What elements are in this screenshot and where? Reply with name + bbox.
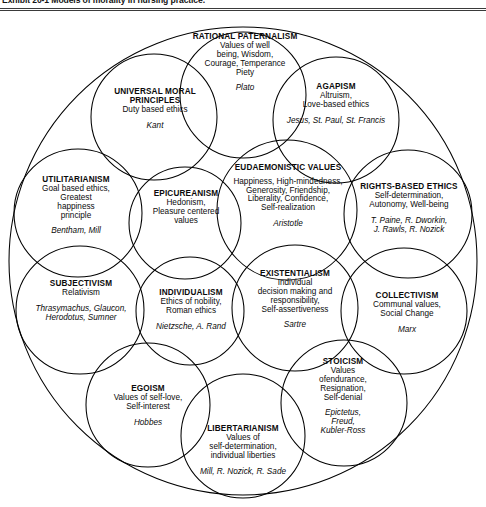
node-individualism[interactable]: INDIVIDUALISM Ethics of nobility, Roman … — [138, 289, 244, 332]
node-egoism[interactable]: EGOISM Values of self-love, Self-interes… — [93, 385, 203, 428]
node-stoicism[interactable]: STOICISM Values ofendurance, Resignation… — [300, 358, 386, 436]
exhibit-caption-text: Exhibit 20-1 Models of morality in nursi… — [2, 0, 205, 5]
node-description: Values of self-love, Self-interest — [93, 394, 203, 412]
node-proponents: Thrasymachus, Glaucon, Herodotus, Sumner — [16, 305, 146, 323]
node-description: Ethics of nobility, Roman ethics — [138, 298, 244, 316]
node-rights-based-ethics[interactable]: RIGHTS-BASED ETHICS Self-determination, … — [347, 183, 471, 234]
node-existentialism[interactable]: EXISTENTIALISM Individual decision makin… — [234, 270, 356, 330]
node-eudaemonistic-values[interactable]: EUDAEMONISTIC VALUES Happiness, High-min… — [222, 164, 354, 229]
node-proponents: Sartre — [234, 321, 356, 330]
node-proponents: Jesus, St. Paul, St. Francis — [272, 117, 400, 126]
node-universal-moral-principles[interactable]: UNIVERSAL MORAL PRINCIPLES Duty based et… — [88, 88, 222, 131]
node-description: Self-determination, Autonomy, Well-being — [347, 192, 471, 210]
node-proponents: Bentham, Mill — [19, 227, 133, 236]
node-description: Individual decision making and responsib… — [234, 279, 356, 314]
node-proponents: Nietzsche, A. Rand — [138, 323, 244, 332]
node-collectivism[interactable]: COLLECTIVISM Communal values, Social Cha… — [353, 292, 461, 335]
node-description: Communal values, Social Change — [353, 301, 461, 319]
node-agapism[interactable]: AGAPISM Altruism, Love-based ethics Jesu… — [272, 83, 400, 126]
node-proponents: Epictetus, Freud, Kubler-Ross — [300, 409, 386, 435]
node-description: Values ofendurance, Resignation, Self-de… — [300, 367, 386, 402]
node-title: UNIVERSAL MORAL PRINCIPLES — [88, 88, 222, 106]
node-description: Values of well being, Wisdom, Courage, T… — [186, 42, 304, 77]
node-title: EUDAEMONISTIC VALUES — [222, 164, 354, 173]
node-subjectivism[interactable]: SUBJECTIVISM Relativism Thrasymachus, Gl… — [16, 280, 146, 323]
node-description: Goal based ethics, Greatest happiness pr… — [19, 185, 133, 220]
node-description: Values of self-determination, individual… — [182, 434, 304, 460]
node-proponents: Marx — [353, 326, 461, 335]
node-description: Happiness, High-mindedness, Generosity, … — [222, 178, 354, 213]
node-utilitarianism[interactable]: UTILITARIANISM Goal based ethics, Greate… — [19, 176, 133, 236]
node-proponents: T. Paine, R. Dworkin, J. Rawls, R. Nozic… — [347, 217, 471, 235]
node-description: Duty based ethics — [88, 106, 222, 115]
exhibit-page: Exhibit 20-1 Models of morality in nursi… — [0, 0, 486, 507]
node-description: Relativism — [16, 289, 146, 298]
node-libertarianism[interactable]: LIBERTARIANISM Values of self-determinat… — [182, 425, 304, 476]
node-proponents: Mill, R. Nozick, R. Sade — [182, 468, 304, 477]
node-proponents: Aristotle — [222, 220, 354, 229]
node-description: Altruism, Love-based ethics — [272, 92, 400, 110]
node-proponents: Kant — [88, 122, 222, 131]
